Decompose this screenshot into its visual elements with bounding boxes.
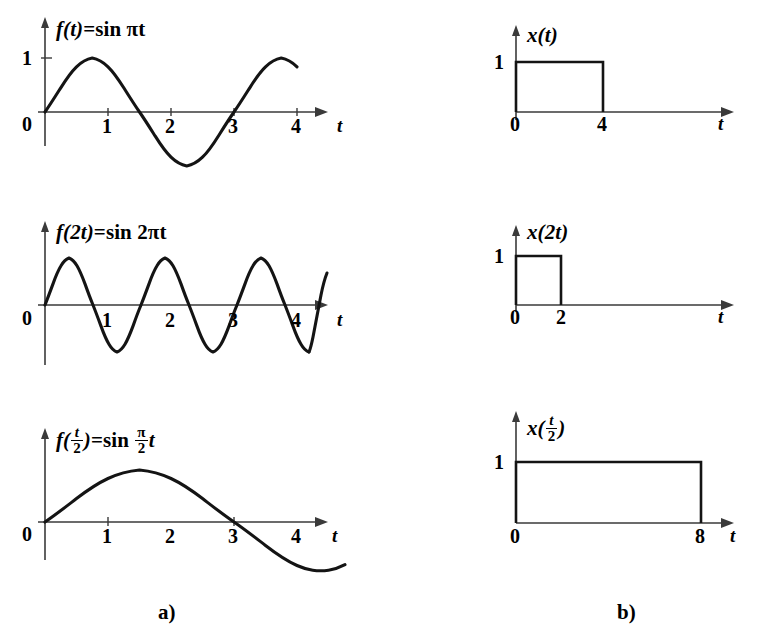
- origin-label: 0: [510, 307, 520, 327]
- chart-panel-sin-half-pi-t: f(t2)=sin π2t 0 1 2 3 4 t: [0, 400, 386, 632]
- y-axis-arrow-icon: [41, 221, 49, 232]
- x-axis-label-t: t: [718, 307, 723, 326]
- y-axis-arrow-icon: [41, 428, 49, 439]
- origin-label: 0: [510, 526, 520, 546]
- origin-label: 0: [22, 524, 32, 544]
- column-caption-a: a): [158, 600, 176, 625]
- plot-pulse-x-half-t: [386, 400, 772, 600]
- chart-panel-sin-2pi-t: f(2t)=sin 2πt 0 1 2 3 4 t: [0, 200, 386, 400]
- panel-label-x-2t: x(2t): [527, 222, 568, 243]
- x-tick-label-2: 2: [165, 310, 175, 330]
- x-tick-label-4: 4: [291, 116, 301, 136]
- x-tick-label-4: 4: [291, 310, 301, 330]
- x-tick-label-1: 1: [102, 310, 112, 330]
- panel-label-sin-2pi-t: f(2t)=sin 2πt: [56, 222, 167, 243]
- x-tick-label-2: 2: [556, 307, 566, 327]
- x-tick-label-3: 3: [228, 116, 238, 136]
- fraction-t-over-2: t2: [71, 425, 83, 457]
- column-caption-b: b): [617, 600, 636, 625]
- figure-time-scaling: f(t)=sin πt 1 0 1 2 3 4 t f(2t)=sin 2πt …: [0, 0, 772, 632]
- x-tick-label-2: 2: [165, 116, 175, 136]
- y-axis-arrow-icon: [512, 225, 520, 236]
- panel-label-sin-half-pi-t: f(t2)=sin π2t: [56, 426, 155, 458]
- panel-label-x-half-t: x(t2): [527, 414, 565, 446]
- fraction-pi-over-2: π2: [135, 425, 147, 457]
- y-axis-arrow-icon: [41, 17, 49, 28]
- x-axis-label-t: t: [718, 114, 723, 133]
- x-axis-label-t: t: [337, 310, 342, 329]
- fraction-t-over-2: t2: [546, 413, 558, 445]
- plot-pulse-x-t: [386, 0, 772, 200]
- x-tick-label-3: 3: [228, 310, 238, 330]
- origin-label: 0: [510, 114, 520, 134]
- panel-label-sin-pi-t: f(t)=sin πt: [56, 19, 145, 40]
- x-tick-label-4: 4: [291, 526, 301, 546]
- origin-label: 0: [22, 114, 32, 134]
- y-tick-label-1: 1: [494, 452, 504, 472]
- x-tick-label-1: 1: [102, 526, 112, 546]
- origin-label: 0: [22, 308, 32, 328]
- pulse-waveform: [516, 62, 603, 112]
- y-tick-label-1: 1: [22, 48, 32, 68]
- x-tick-label-4: 4: [597, 114, 607, 134]
- y-tick-label-1: 1: [494, 52, 504, 72]
- y-axis-arrow-icon: [512, 25, 520, 36]
- sine-curve-tail: [309, 273, 327, 352]
- chart-panel-pulse-x-2t: x(2t) 1 0 2 t: [386, 200, 772, 400]
- pulse-waveform: [516, 256, 561, 305]
- panel-label-x-t: x(t): [527, 25, 558, 46]
- x-tick-label-1: 1: [102, 116, 112, 136]
- chart-panel-sin-pi-t: f(t)=sin πt 1 0 1 2 3 4 t: [0, 0, 386, 200]
- x-tick-label-3: 3: [228, 526, 238, 546]
- chart-panel-pulse-x-half-t: x(t2) 1 0 8 t: [386, 400, 772, 632]
- x-axis-label-t: t: [332, 526, 337, 545]
- x-axis-label-t: t: [337, 116, 342, 135]
- x-tick-label-2: 2: [165, 526, 175, 546]
- y-axis-arrow-icon: [512, 411, 520, 422]
- x-axis-arrow-icon: [315, 517, 328, 527]
- pulse-waveform: [516, 462, 701, 523]
- sine-curve: [45, 470, 345, 571]
- x-tick-label-8: 8: [695, 526, 705, 546]
- plot-pulse-x-2t: [386, 200, 772, 400]
- x-axis-label-t: t: [730, 526, 735, 545]
- y-tick-label-1: 1: [494, 246, 504, 266]
- chart-panel-pulse-x-t: x(t) 1 0 4 t: [386, 0, 772, 200]
- x-axis-arrow-icon: [315, 107, 328, 117]
